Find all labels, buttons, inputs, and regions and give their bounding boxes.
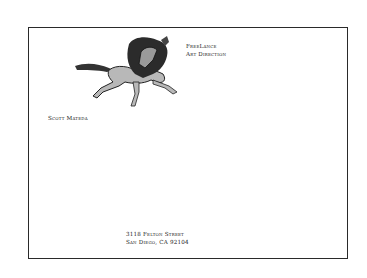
horse-rider-icon	[73, 34, 189, 112]
firm-line-1: FreeLance	[186, 42, 226, 50]
business-card: FreeLance Art Direction Scott Mateda 311…	[28, 27, 348, 259]
address-city: San Diego, CA 92104	[126, 238, 189, 246]
firm-name: FreeLance Art Direction	[186, 42, 226, 58]
address: 3118 Felton Street San Diego, CA 92104	[126, 230, 189, 246]
person-name: Scott Mateda	[48, 115, 88, 121]
firm-line-2: Art Direction	[186, 50, 226, 58]
address-street: 3118 Felton Street	[126, 230, 189, 238]
